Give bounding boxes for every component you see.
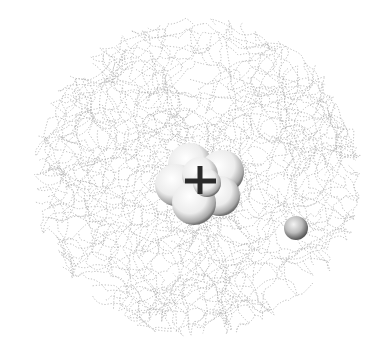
atom-svg xyxy=(0,0,387,352)
electron-path xyxy=(296,130,358,176)
electron-path xyxy=(174,210,275,329)
electron-path xyxy=(58,31,144,92)
electron-path xyxy=(44,212,119,270)
electron-path xyxy=(131,26,198,106)
electron-path xyxy=(233,67,321,119)
electron-path xyxy=(62,83,118,224)
electron-path xyxy=(56,49,128,151)
electron-path xyxy=(40,54,112,170)
electron-path xyxy=(63,267,171,318)
electron-path xyxy=(106,296,183,336)
electron-path xyxy=(75,62,210,154)
electron-path xyxy=(135,64,181,110)
electron-path xyxy=(235,231,298,307)
electron-path xyxy=(226,28,277,97)
electron-path xyxy=(197,241,328,299)
electron-path xyxy=(39,155,74,233)
electron-path xyxy=(248,133,314,234)
electron-path xyxy=(120,240,157,332)
electron-path xyxy=(221,244,246,331)
electron-path xyxy=(92,225,159,319)
electron-path xyxy=(73,273,177,324)
electron-path xyxy=(112,69,180,156)
electron-path xyxy=(87,47,135,150)
electron-path xyxy=(330,129,359,220)
electron-path xyxy=(297,146,356,265)
electron-path xyxy=(265,43,342,175)
electron-path xyxy=(241,23,331,113)
electron-path xyxy=(85,200,179,316)
atom-illustration xyxy=(0,0,387,352)
electron-path xyxy=(53,174,136,284)
electron-path xyxy=(206,53,288,143)
electron-path xyxy=(248,115,330,209)
electron-path xyxy=(207,37,299,97)
electron xyxy=(284,216,308,240)
electron-path xyxy=(73,92,117,181)
